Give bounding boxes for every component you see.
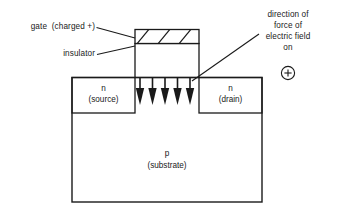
field-annotation-line2: force of — [253, 21, 323, 32]
field-annotation-line3: electric field — [253, 32, 323, 43]
substrate-type-label: p — [122, 148, 212, 159]
down-arrow-icon — [186, 78, 194, 105]
gate-leader-line — [97, 28, 136, 39]
field-annotation-line1: direction of — [253, 10, 323, 21]
electric-field-arrows — [136, 78, 194, 105]
insulator-label: insulator — [0, 49, 95, 60]
substrate-name-label: (substrate) — [122, 160, 212, 171]
circled-plus-icon — [281, 66, 294, 79]
gate-label: gate (charged +) — [0, 22, 95, 33]
field-annotation-line4: on — [253, 43, 323, 54]
field-direction-pointer-line — [192, 34, 259, 81]
insulator-region-box — [135, 44, 199, 78]
down-arrow-icon — [173, 78, 181, 105]
down-arrow-icon — [136, 78, 144, 105]
down-arrow-icon — [161, 78, 169, 105]
drain-name-label: (drain) — [199, 94, 262, 105]
source-name-label: (source) — [72, 94, 135, 105]
drain-type-label: n — [199, 83, 262, 94]
insulator-leader-line — [97, 46, 135, 55]
source-type-label: n — [72, 83, 135, 94]
down-arrow-icon — [148, 78, 156, 105]
figure-canvas: gate (charged +) insulator n (source) n … — [0, 0, 343, 214]
